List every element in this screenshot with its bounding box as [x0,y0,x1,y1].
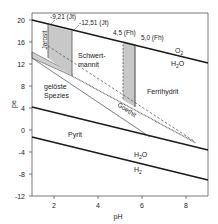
y-tick-label: 8 [21,83,25,90]
x-tick-label: 2 [52,202,56,209]
diagram-canvas: 20 16 12 8 4 0 -4 -8 -12 2 4 6 8 pH pe [0,0,218,224]
y-tick-label: 0 [21,127,25,134]
region-label-jarosit: Jarosit [41,30,48,49]
label-o2: O2 [175,47,183,56]
y-tick-label: -8 [19,171,25,178]
y-tick-label: 16 [17,39,25,46]
x-tick-labels: 2 4 6 8 [52,202,188,209]
y-tick-label: 4 [21,105,25,112]
annotation-fh-5-0: 5,0 (Fh) [141,34,164,42]
y-tick-label: 12 [17,61,25,68]
x-axis-label: pH [114,213,123,221]
region-fh-shade [123,41,135,107]
x-tick-label: 4 [96,202,100,209]
region-label-geloeste-1: gelöste [44,83,67,91]
region-label-schwertmannit-1: Schwert- [78,52,106,59]
region-label-schwertmannit-2: mannit [78,61,99,68]
label-h2o-upper: H2O [171,60,185,69]
annotation-jt-12-51: -12,51 (Jt) [79,19,109,27]
annotation-fh-4-5: 4,5 (Fh) [113,29,136,37]
label-h2: H2 [134,166,142,175]
y-tick-label: -4 [19,149,25,156]
x-tick-label: 8 [184,202,188,209]
y-axis-label: pe [10,100,18,108]
region-label-ferrihydrit: Ferrihydrit [147,88,179,96]
region-label-pyrit: Pyrit [68,131,82,139]
annotation-jt-9-21: -9,21 (Jt) [50,13,76,21]
y-tick-label: -12 [15,193,25,200]
label-h2o-lower: H2O [134,151,148,160]
x-tick-label: 6 [140,202,144,209]
region-label-geloeste-2: Spezies [44,92,69,100]
x-ticks [54,196,186,199]
y-tick-label: 20 [17,17,25,24]
y-ticks [29,20,32,196]
pe-ph-diagram: 20 16 12 8 4 0 -4 -8 -12 2 4 6 8 pH pe [0,0,218,224]
